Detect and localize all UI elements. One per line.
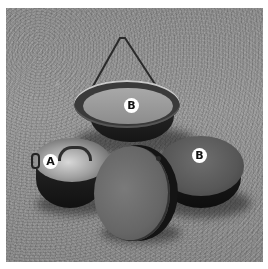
front-lid-knob	[156, 156, 161, 161]
left-pot-ear	[31, 153, 40, 169]
photo: B A B	[6, 8, 263, 262]
label-left-pot: A	[43, 154, 58, 169]
left-pot-lid-handle	[58, 146, 92, 161]
label-top-pot: B	[124, 98, 139, 113]
label-right-pot: B	[192, 148, 207, 163]
